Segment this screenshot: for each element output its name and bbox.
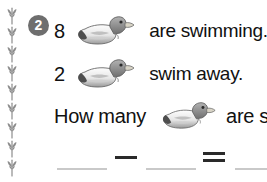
line-1-number: 8 — [54, 20, 65, 43]
answer-blank-1[interactable] — [57, 168, 107, 170]
problem-line-1: 8 — [54, 14, 267, 48]
line-2-number: 2 — [54, 63, 65, 86]
worksheet-page: 2 8 — [0, 0, 267, 182]
minus-operator-icon — [115, 156, 137, 159]
answer-blank-3[interactable] — [235, 168, 267, 170]
problem-number-badge: 2 — [28, 15, 49, 36]
problem-line-3: How many — [54, 100, 267, 132]
duck-icon — [74, 14, 136, 48]
duck-icon — [74, 57, 136, 91]
line-3-question-prefix: How many — [54, 105, 146, 128]
line-1-text: are swimming. — [149, 20, 267, 42]
sprig-icon — [3, 6, 21, 25]
sprig-icon — [3, 63, 21, 82]
sprig-icon — [3, 44, 21, 63]
sprig-icon — [3, 25, 21, 44]
sprig-icon — [3, 120, 21, 139]
equals-operator-icon — [203, 152, 225, 163]
duck-icon — [159, 100, 217, 132]
problem-line-2: 2 — [54, 57, 243, 91]
sprig-icon — [3, 82, 21, 101]
sprig-icon — [3, 101, 21, 120]
answer-blank-2[interactable] — [146, 168, 196, 170]
line-3-question-suffix: are s — [226, 105, 267, 128]
answer-equation — [0, 140, 267, 182]
line-2-text: swim away. — [149, 63, 243, 85]
